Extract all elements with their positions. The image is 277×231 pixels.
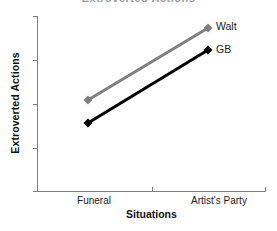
series-walt-line bbox=[88, 28, 208, 100]
series-plot-layer bbox=[0, 0, 277, 231]
series-gb-line bbox=[88, 50, 208, 123]
series-walt bbox=[84, 24, 213, 105]
series-label-gb: GB bbox=[216, 43, 231, 55]
series-gb bbox=[84, 46, 213, 128]
chart-screenshot: Extroverted Actions Extroverted Actions … bbox=[0, 0, 277, 231]
series-label-walt: Walt bbox=[216, 20, 237, 32]
